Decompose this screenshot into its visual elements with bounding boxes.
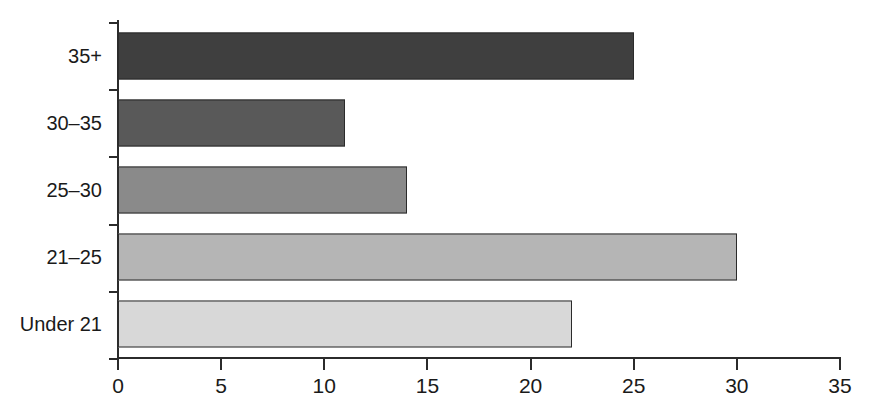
x-axis-tick xyxy=(633,359,635,370)
bar xyxy=(118,99,345,146)
x-axis-tick xyxy=(736,359,738,370)
bar xyxy=(118,234,737,281)
x-axis-tick-label: 25 xyxy=(622,374,645,398)
x-axis-tick xyxy=(220,359,222,370)
category-label: 30–35 xyxy=(0,111,102,134)
y-axis-tick xyxy=(109,89,118,91)
x-axis-tick xyxy=(530,359,532,370)
x-axis-tick-label: 35 xyxy=(828,374,851,398)
bar xyxy=(118,301,572,348)
category-label: Under 21 xyxy=(0,313,102,336)
x-axis-tick xyxy=(117,359,119,370)
y-axis-tick xyxy=(109,22,118,24)
x-axis-tick xyxy=(839,359,841,370)
y-axis-tick xyxy=(109,156,118,158)
bar-band xyxy=(118,89,840,156)
category-label: 25–30 xyxy=(0,179,102,202)
category-label: 21–25 xyxy=(0,246,102,269)
bar xyxy=(118,166,407,213)
x-axis-tick-label: 0 xyxy=(112,374,124,398)
category-label: 35+ xyxy=(0,44,102,67)
bar-chart: 35+30–3525–3021–25Under 21 0510152025303… xyxy=(0,0,875,413)
y-axis-tick xyxy=(109,224,118,226)
plot-area xyxy=(118,22,840,358)
x-axis-tick xyxy=(426,359,428,370)
x-axis-tick-label: 20 xyxy=(519,374,542,398)
x-axis-tick-label: 10 xyxy=(313,374,336,398)
x-axis-tick xyxy=(323,359,325,370)
x-axis-tick-label: 30 xyxy=(725,374,748,398)
bar-band xyxy=(118,291,840,358)
bar-band xyxy=(118,224,840,291)
bar-band xyxy=(118,156,840,223)
y-axis-tick xyxy=(109,291,118,293)
bar-band xyxy=(118,22,840,89)
bar xyxy=(118,32,634,79)
x-axis-tick-label: 15 xyxy=(416,374,439,398)
x-axis-tick-label: 5 xyxy=(215,374,227,398)
